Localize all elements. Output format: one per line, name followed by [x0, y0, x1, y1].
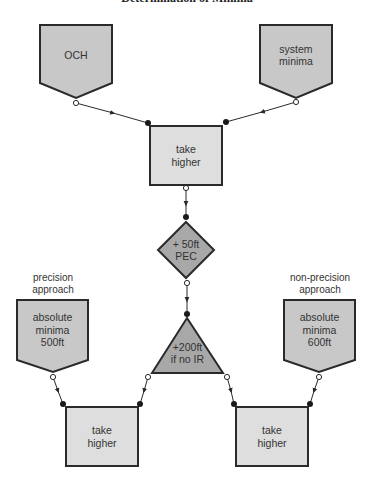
abs-minima-nonprecision-label: absolute minima 600ft — [284, 305, 355, 355]
output-port-icon — [293, 99, 298, 104]
precision-line2: approach — [2, 284, 104, 296]
output-port-icon — [224, 374, 229, 379]
take-higher-top-line2: higher — [171, 156, 200, 169]
precision-approach-label: precision approach — [2, 272, 104, 296]
take-higher-left-line1: take — [87, 424, 116, 437]
precision-line1: precision — [2, 272, 104, 284]
take-higher-left-label: take higher — [66, 407, 138, 466]
non-precision-line2: approach — [268, 284, 372, 296]
system-minima-label: system minima — [260, 35, 332, 75]
abs-min-nonprecision-line1: absolute — [300, 311, 340, 324]
system-minima-line1: system — [279, 43, 313, 56]
connector-system-end — [226, 112, 262, 122]
no-ir-line1: +200ft — [171, 341, 204, 354]
output-port-icon — [50, 374, 55, 379]
system-minima-line2: minima — [279, 55, 313, 68]
non-precision-line1: non-precision — [268, 272, 372, 284]
input-port-icon — [184, 311, 190, 317]
och-label: OCH — [40, 35, 112, 75]
take-higher-right-line1: take — [257, 424, 286, 437]
take-higher-right-line2: higher — [257, 437, 286, 450]
take-higher-top-label: take higher — [150, 126, 222, 185]
input-port-icon — [183, 214, 189, 220]
pec-line2: PEC — [173, 250, 200, 263]
output-port-icon — [145, 374, 150, 379]
take-higher-left-line2: higher — [87, 437, 116, 450]
abs-min-nonprecision-line2: minima — [300, 324, 340, 337]
take-higher-right-label: take higher — [236, 407, 308, 466]
input-port-icon — [223, 119, 229, 125]
och-text: OCH — [64, 49, 87, 62]
abs-min-precision-line2: minima — [33, 324, 73, 337]
pec-line1: + 50ft — [173, 238, 200, 251]
output-port-icon — [183, 185, 188, 190]
connector-system-mid — [262, 102, 296, 112]
connector-och-mid — [76, 103, 113, 113]
non-precision-approach-label: non-precision approach — [268, 272, 372, 296]
connector-och-end — [113, 113, 148, 123]
abs-minima-precision-label: absolute minima 500ft — [17, 305, 88, 355]
output-port-icon — [73, 100, 78, 105]
abs-min-nonprecision-value: 600ft — [300, 336, 340, 349]
abs-min-precision-line1: absolute — [33, 311, 73, 324]
output-port-icon — [316, 374, 321, 379]
diagram-title: Determination of Minima — [0, 0, 374, 6]
output-port-icon — [184, 280, 189, 285]
abs-min-precision-value: 500ft — [33, 336, 73, 349]
no-ir-label: +200ft if no IR — [152, 338, 223, 368]
no-ir-line2: if no IR — [171, 353, 204, 366]
take-higher-top-line1: take — [171, 143, 200, 156]
pec-label: + 50ft PEC — [158, 232, 214, 268]
